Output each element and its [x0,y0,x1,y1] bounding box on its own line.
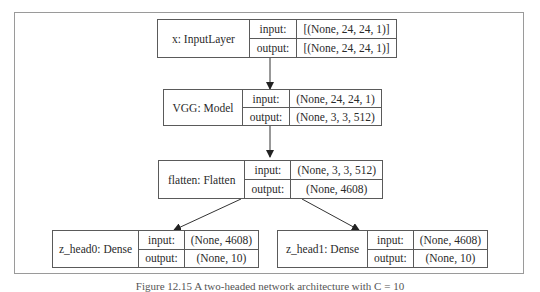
node-input-layer: x: InputLayer input: output: [(None, 24,… [157,19,397,58]
node-flatten: flatten: Flatten input: output: (None, 3… [158,160,383,199]
output-label: output: [245,179,290,198]
output-shape: [(None, 24, 24, 1)] [297,38,396,57]
input-shape: (None, 24, 24, 1) [290,90,381,107]
input-label: input: [245,161,290,179]
output-shape: (None, 4608) [291,179,382,198]
input-label: input: [243,90,289,107]
input-shape: (None, 4608) [414,231,487,249]
node-name: z_head1: Dense [278,231,368,267]
output-shape: (None, 10) [185,249,258,268]
node-name: z_head0: Dense [53,231,139,267]
node-name: VGG: Model [164,90,243,125]
input-shape: (None, 3, 3, 512) [291,161,382,179]
input-shape: (None, 4608) [185,231,258,249]
input-shape: [(None, 24, 24, 1)] [297,20,396,38]
output-label: output: [139,249,184,268]
node-name: x: InputLayer [158,20,250,57]
node-name: flatten: Flatten [159,161,245,198]
figure-caption: Figure 12.15 A two-headed network archit… [0,280,540,292]
node-vgg-model: VGG: Model input: output: (None, 24, 24,… [163,89,382,126]
node-z-head1: z_head1: Dense input: output: (None, 460… [277,230,488,268]
output-label: output: [250,38,296,57]
edge-flatten-to-zhead0 [174,199,241,230]
output-shape: (None, 3, 3, 512) [290,107,381,125]
input-label: input: [368,231,413,249]
edge-flatten-to-zhead1 [302,199,359,230]
output-label: output: [243,107,289,125]
input-label: input: [139,231,184,249]
node-z-head0: z_head0: Dense input: output: (None, 460… [52,230,259,268]
output-label: output: [368,249,413,268]
output-shape: (None, 10) [414,249,487,268]
input-label: input: [250,20,296,38]
